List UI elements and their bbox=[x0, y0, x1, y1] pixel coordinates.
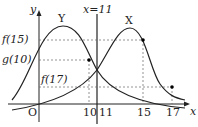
guide-lines bbox=[39, 40, 172, 104]
point-f15 bbox=[141, 38, 145, 42]
g10-label: g(10) bbox=[2, 54, 32, 65]
tick-11: 11 bbox=[99, 107, 113, 118]
f15-label: f(15) bbox=[2, 34, 29, 45]
tick-17: 17 bbox=[166, 107, 180, 118]
tick-15: 15 bbox=[137, 107, 151, 118]
y-axis-arrow-icon bbox=[37, 10, 42, 16]
point-g10 bbox=[87, 58, 91, 62]
tick-10: 10 bbox=[83, 107, 97, 118]
curve-y-label: Y bbox=[58, 13, 65, 24]
origin-label: O bbox=[28, 107, 37, 118]
curve-x-label: X bbox=[125, 15, 133, 26]
x-axis-label: x bbox=[190, 106, 196, 117]
f17-label: f(17) bbox=[41, 74, 68, 85]
line-label: x=11 bbox=[83, 4, 112, 15]
point-f17 bbox=[170, 85, 174, 89]
curve-x bbox=[12, 28, 185, 110]
y-axis-label: y bbox=[30, 4, 36, 15]
graph-diagram: y x O x=11 Y X f(15) g(10) f(17) 10 11 1… bbox=[0, 0, 198, 127]
